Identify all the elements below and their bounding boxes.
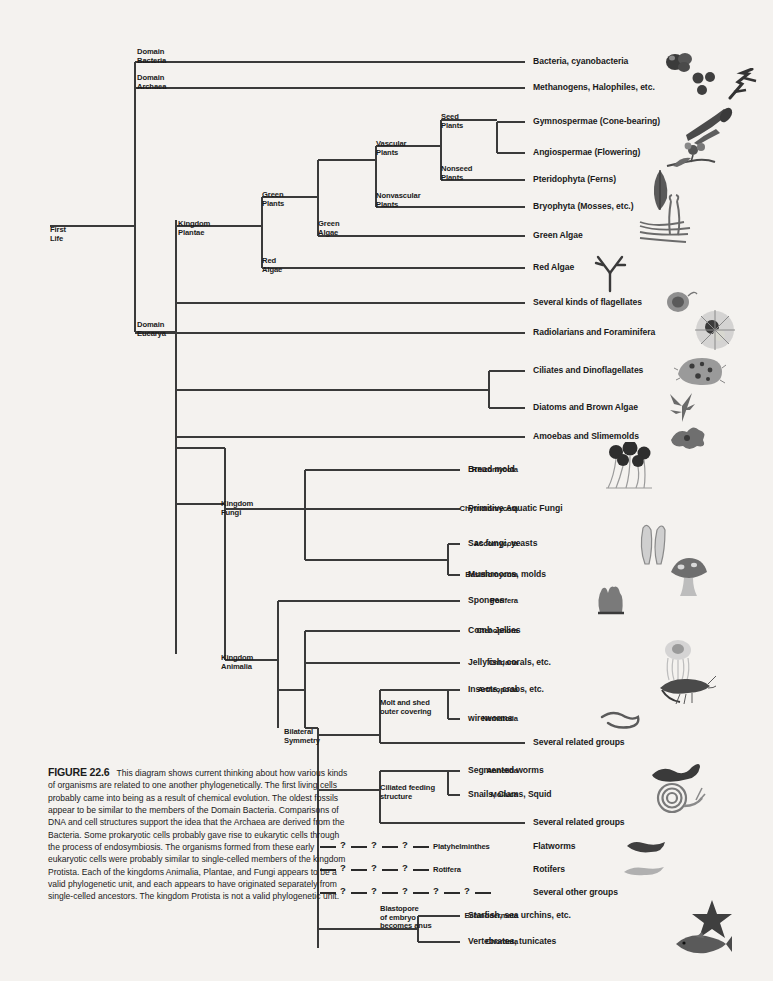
leaf-common-rhizomycota: Bread mold [468, 465, 515, 475]
node-label-line1: Bilateral [284, 727, 313, 736]
leaf-common-several-related-1: Several related groups [533, 738, 625, 748]
question-mark-icon: ? [402, 840, 408, 851]
node-label-line2: Plants [441, 122, 463, 131]
node-label-line2: Algae [262, 266, 282, 275]
leaf-common-amoebas: Amoebas and Slimemolds [533, 432, 639, 442]
node-label-kingdom-fungi: KingdomFungi [221, 500, 253, 517]
leaf-common-radiolarians: Radiolarians and Foraminifera [533, 328, 655, 338]
leaf-common-ciliates: Ciliates and Dinoflagellates [533, 366, 643, 376]
node-label-line3: becomes anus [380, 922, 432, 931]
question-mark-icon: ? [371, 863, 377, 874]
q-taxon-rotifera-row: Rotifera [433, 866, 491, 875]
leaf-common-flagellates: Several kinds of flagellates [533, 298, 642, 308]
leaf-common-chordata: Vertebrates, tunicates [468, 937, 556, 947]
leaf-common-ascomycota: Sac fungi, yeasts [468, 539, 537, 549]
node-label-line1: Domain [137, 320, 164, 329]
node-label-line1: Domain [137, 47, 164, 56]
node-label-line2: Bacteria [137, 57, 166, 66]
node-label-line1: Nonvascular [376, 191, 420, 200]
leaf-common-archaea: Methanogens, Halophiles, etc. [533, 83, 655, 93]
node-label-domain-archaea: DomainArchaea [137, 74, 166, 91]
leaf-common-annelida: Segmented worms [468, 766, 544, 776]
node-label-seed-plants: SeedPlants [441, 113, 463, 130]
leaf-common-green-algae: Green Algae [533, 231, 583, 241]
question-mark-icon: ? [433, 886, 439, 897]
node-label-line2: Plants [441, 174, 472, 183]
question-mark-icon: ? [371, 886, 377, 897]
node-label-domain-bacteria: DomainBacteria [137, 48, 166, 65]
node-label-line1: Domain [137, 73, 164, 82]
node-label-red-algae-node: RedAlgae [262, 257, 282, 274]
node-label-line2: Archaea [137, 83, 166, 92]
leaf-common-echinodermata: Starfish, sea urchins, etc. [468, 911, 571, 921]
node-label-line2: Plants [262, 200, 284, 209]
leaf-common-arthropoda: Insects, crabs, etc. [468, 685, 544, 695]
leaf-common-pteridophyta: Pteridophyta (Ferns) [533, 175, 616, 185]
node-label-molt-and-shed: Molt and shedouter covering [380, 699, 431, 716]
node-label-line1: Kingdom [221, 653, 253, 662]
node-label-line1: Nonseed [441, 164, 472, 173]
node-label-line2: Life [50, 235, 66, 244]
figure-number: FIGURE 22.6 [48, 766, 109, 778]
leaf-common-angiospermae: Angiospermae (Flowering) [533, 148, 640, 158]
node-label-domain-eucarya: DomainEucarya [137, 321, 166, 338]
question-mark-icon: ? [402, 886, 408, 897]
leaf-common-molluca: Snails, Clams, Squid [468, 790, 552, 800]
node-label-line1: Seed [441, 112, 459, 121]
leaf-common-red-algae: Red Algae [533, 263, 574, 273]
leaf-common-gymnospermae: Gymnospermae (Cone-bearing) [533, 117, 660, 127]
leaf-common-bryophyta: Bryophyta (Mosses, etc.) [533, 202, 634, 212]
node-label-line1: Green [318, 219, 339, 228]
leaf-common-ctenophora: Comb Jellies [468, 626, 520, 636]
figure-caption: FIGURE 22.6 This diagram shows current t… [48, 766, 348, 903]
node-label-nonvascular-plants: NonvascularPlants [376, 192, 420, 209]
node-label-kingdom-plantae: KingdomPlantae [178, 220, 210, 237]
node-label-line1: Red [262, 256, 276, 265]
node-label-line2: Animalia [221, 663, 253, 672]
node-label-line2: Plantae [178, 229, 210, 238]
node-label-line1: Kingdom [221, 499, 253, 508]
question-mark-icon: ? [464, 886, 470, 897]
figure-caption-text: This diagram shows current thinking abou… [48, 768, 347, 901]
node-label-green-algae-node: GreenAlgae [318, 220, 339, 237]
node-label-green-plants: GreenPlants [262, 191, 284, 208]
leaf-common-bacteria: Bacteria, cyanobacteria [533, 57, 628, 67]
figure-page: FirstLifeDomainBacteriaDomainArchaeaDoma… [0, 0, 773, 981]
node-label-nonseed-plants: NonseedPlants [441, 165, 472, 182]
node-label-line1: Green [262, 190, 283, 199]
node-label-line1: Molt and shed [380, 698, 430, 707]
leaf-common-porifera: Sponges [468, 596, 504, 606]
q-taxon-platyhelminthes-row: Platyhelminthes [433, 843, 491, 852]
q-common-rotifera-row: Rotifers [533, 865, 565, 875]
leaf-common-diatoms: Diatoms and Brown Algae [533, 403, 638, 413]
node-label-line2: Plants [376, 201, 420, 210]
node-label-root: FirstLife [50, 226, 66, 243]
node-label-line2: Plants [376, 149, 406, 158]
leaf-common-cnidaria: Jellyfish, corals, etc. [468, 658, 551, 668]
leaf-common-several-related-2: Several related groups [533, 818, 625, 828]
node-label-line2: Fungi [221, 509, 253, 518]
leaf-common-chytridiomycota: Primitive Aquatic Fungi [468, 504, 563, 514]
leaf-common-nematoda: wireworms [468, 714, 512, 724]
q-common-platyhelminthes-row: Flatworms [533, 842, 576, 852]
leaf-common-basidiomycota: Mushrooms, molds [468, 570, 546, 580]
question-mark-icon: ? [402, 863, 408, 874]
node-label-line2: Algae [318, 229, 339, 238]
q-common-several-other-row: Several other groups [533, 888, 618, 898]
node-label-vascular-plants: VascularPlants [376, 140, 406, 157]
question-mark-icon: ? [371, 840, 377, 851]
node-label-bilateral-symmetry: BilateralSymmetry [284, 728, 320, 745]
node-label-line1: Vascular [376, 139, 406, 148]
node-label-line2: Eucarya [137, 330, 166, 339]
node-label-line1: First [50, 225, 66, 234]
node-label-line2: Symmetry [284, 737, 320, 746]
node-label-line1: Kingdom [178, 219, 210, 228]
node-label-kingdom-animalia: KingdomAnimalia [221, 654, 253, 671]
